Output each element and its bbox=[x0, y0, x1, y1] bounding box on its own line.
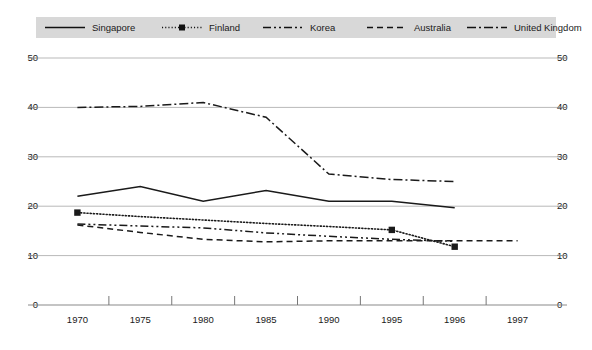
data-point-marker bbox=[389, 227, 395, 233]
series-line-finland bbox=[77, 213, 454, 247]
series-line-australia bbox=[77, 225, 517, 242]
gridlines bbox=[28, 58, 567, 305]
axis-ticks bbox=[109, 296, 486, 305]
series-line-united-kingdom bbox=[77, 103, 454, 182]
series-line-korea bbox=[77, 224, 454, 241]
plot-area bbox=[0, 0, 592, 350]
data-point-marker bbox=[74, 209, 80, 215]
data-series-group bbox=[74, 103, 517, 250]
data-point-marker bbox=[452, 244, 458, 250]
series-line-singapore bbox=[77, 186, 454, 207]
line-chart: SingaporeFinlandKoreaAustraliaUnited Kin… bbox=[0, 0, 592, 350]
